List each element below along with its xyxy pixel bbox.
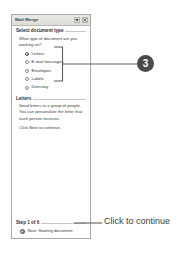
section-divider [41, 223, 86, 224]
section-title-select-document-type: Select document type [16, 29, 63, 34]
chevron-down-icon[interactable] [74, 17, 80, 23]
mail-merge-task-pane: Mail Merge Select document type What typ… [11, 14, 91, 239]
document-type-prompt: What type of document are you working on… [12, 34, 90, 48]
radio-option-envelopes[interactable]: Envelopes [25, 67, 90, 75]
arrow-right-icon [20, 229, 25, 234]
task-pane-titlebar: Mail Merge [12, 15, 90, 26]
task-pane-title: Mail Merge [15, 18, 74, 22]
section-title-letters: Letters [16, 97, 31, 102]
letters-hint: Click Next to continue. [12, 122, 90, 131]
step-footer: Step 1 of 6 Next: Starting document [12, 218, 90, 234]
callout-badge-number: 3 [143, 59, 149, 69]
next-step-link[interactable]: Next: Starting document [12, 226, 90, 235]
radio-indicator-icon [25, 77, 29, 81]
radio-indicator-icon [25, 60, 29, 64]
section-header-select-document-type: Select document type [12, 26, 90, 34]
radio-label: Labels [32, 77, 44, 81]
close-icon[interactable] [82, 17, 88, 23]
radio-label: Envelopes [32, 69, 52, 73]
radio-option-email-messages[interactable]: E-mail messages [25, 58, 90, 66]
letters-description: Send letters to a group of people. You c… [12, 101, 90, 121]
radio-label: E-mail messages [32, 60, 64, 64]
callout-click-to-continue: Click to continue [104, 217, 170, 226]
document-type-radio-group: Letters E-mail messages Envelopes Labels… [12, 48, 90, 92]
callout-badge-3: 3 [137, 55, 154, 72]
radio-option-directory[interactable]: Directory [25, 83, 90, 91]
radio-indicator-icon [25, 69, 29, 73]
section-header-letters: Letters [12, 92, 90, 102]
task-pane-body: Select document type What type of docume… [12, 26, 90, 238]
radio-option-labels[interactable]: Labels [25, 75, 90, 83]
section-header-step: Step 1 of 6 [12, 218, 90, 226]
radio-option-letters[interactable]: Letters [25, 50, 90, 58]
section-divider [33, 99, 86, 100]
titlebar-buttons [74, 17, 88, 23]
radio-indicator-icon [25, 52, 29, 56]
step-indicator-label: Step 1 of 6 [16, 221, 39, 226]
section-divider [65, 31, 86, 32]
radio-label: Letters [32, 52, 45, 56]
radio-label: Directory [32, 85, 49, 89]
next-step-label: Next: Starting document [28, 229, 73, 233]
radio-indicator-icon [25, 86, 29, 90]
